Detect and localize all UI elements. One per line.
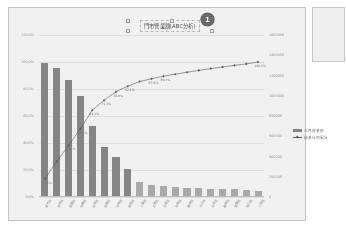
y-axis-right-tick: 1600000: [269, 33, 284, 37]
plot-area: 13.5%38.2%50.6%64.2%71.7%78.0%82.1%87.6%…: [39, 35, 264, 197]
data-point-label: 38.2%: [66, 147, 76, 151]
x-axis-label: 板橋店: [79, 198, 88, 208]
selection-handle-tl[interactable]: [126, 19, 130, 23]
y-axis-right-tick: 0: [269, 195, 271, 199]
x-axis-label: 土城店: [150, 198, 159, 208]
selection-handle-br[interactable]: [210, 29, 214, 33]
y-axis-left-tick: 60.0%: [23, 114, 34, 118]
x-axis-label: 汐止店: [197, 198, 206, 208]
y-axis-left-tick: 80.0%: [23, 87, 34, 91]
y-axis-right-tick: 1200000: [269, 74, 284, 78]
data-point-label: 82.1%: [125, 88, 135, 92]
x-axis-label: 樹林店: [221, 198, 230, 208]
side-panel[interactable]: [312, 7, 345, 62]
cumulative-line-series: [39, 35, 264, 197]
data-point-label: 50.6%: [78, 131, 88, 135]
x-axis-label: 新竹店: [43, 198, 52, 208]
line-marker[interactable]: [138, 80, 141, 83]
y-axis-left-tick: 0.0%: [25, 195, 34, 199]
legend-item[interactable]: 營業比例累計: [293, 135, 346, 140]
selection-handle-bl[interactable]: [126, 29, 130, 33]
selection-handle-tm[interactable]: [170, 19, 174, 23]
y-axis-left-tick: 100.0%: [21, 60, 34, 64]
data-point-label: 78.0%: [113, 94, 123, 98]
legend-bar-swatch-icon: [293, 129, 302, 132]
y-axis-right-tick: 1000000: [269, 94, 284, 98]
data-point-label: 87.6%: [149, 81, 159, 85]
y-axis-right-tick: 400000: [269, 155, 282, 159]
line-marker[interactable]: [150, 77, 153, 80]
data-point-label: 13.5%: [42, 181, 52, 185]
chart-container[interactable]: 門市營業額(ABC分析) 0.0%20.0%40.0%60.0%80.0%100…: [8, 7, 306, 221]
y-axis-left-tick: 120.0%: [21, 33, 34, 37]
data-point-label: 89.4%: [160, 78, 170, 82]
x-axis-label: 蘆洲店: [185, 198, 194, 208]
x-axis-labels: 新竹店台中店桃園店板橋店台南店高雄店中壢店新莊店三重店土城店永和店中和店蘆洲店汐…: [39, 198, 264, 230]
y-axis-right-tick: 800000: [269, 114, 282, 118]
x-axis-label: 高雄店: [102, 198, 111, 208]
x-axis-label: 三重店: [138, 198, 147, 208]
x-axis-label: 桃園店: [67, 198, 76, 208]
legend-item-label: 本月營業額: [304, 128, 324, 133]
side-panel-content: [315, 10, 342, 59]
y-axis-left-tick: 40.0%: [23, 141, 34, 145]
annotation-badge-1[interactable]: 1: [201, 13, 214, 26]
line-marker[interactable]: [127, 85, 130, 88]
legend-line-swatch-icon: [293, 136, 302, 139]
x-axis-label: 淡水店: [209, 198, 218, 208]
data-point-label: 64.2%: [89, 112, 99, 116]
x-axis-line: [39, 196, 264, 197]
chart-title-wrapper[interactable]: 門市營業額(ABC分析): [127, 20, 213, 32]
chart-legend[interactable]: 本月營業額營業比例累計: [293, 128, 346, 140]
x-axis-label: 八里店: [256, 198, 265, 208]
legend-item[interactable]: 本月營業額: [293, 128, 346, 133]
line-marker[interactable]: [221, 66, 224, 69]
y-axis-right-tick: 200000: [269, 175, 282, 179]
data-point-label: 71.7%: [101, 102, 111, 106]
line-marker[interactable]: [209, 67, 212, 70]
x-axis-label: 中壢店: [114, 198, 123, 208]
y-axis-right-tick: 600000: [269, 134, 282, 138]
y-axis-left-tick: 20.0%: [23, 168, 34, 172]
line-marker[interactable]: [245, 63, 248, 66]
x-axis-label: 永和店: [162, 198, 171, 208]
x-axis-label: 鶯歌店: [233, 198, 242, 208]
line-marker[interactable]: [162, 75, 165, 78]
x-axis-label: 中和店: [173, 198, 182, 208]
y-axis-right: 0200000400000600000800000100000012000001…: [266, 35, 306, 197]
y-axis-left: 0.0%20.0%40.0%60.0%80.0%100.0%120.0%: [9, 35, 37, 197]
line-marker[interactable]: [186, 71, 189, 74]
x-axis-label: 新莊店: [126, 198, 135, 208]
line-marker[interactable]: [257, 61, 260, 64]
legend-item-label: 營業比例累計: [304, 135, 328, 140]
x-axis-label: 林口店: [244, 198, 253, 208]
data-point-label: 100.0%: [254, 64, 266, 68]
y-axis-right-tick: 1400000: [269, 53, 284, 57]
line-marker[interactable]: [198, 69, 201, 72]
line-marker[interactable]: [174, 73, 177, 76]
x-axis-label: 台中店: [55, 198, 64, 208]
x-axis-label: 台南店: [91, 198, 100, 208]
line-marker[interactable]: [233, 64, 236, 67]
